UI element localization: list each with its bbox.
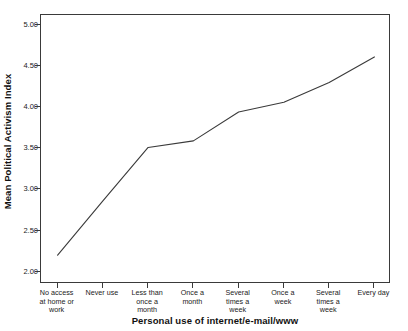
y-axis-tick-mark [35,65,40,66]
y-axis-tick-mark [35,24,40,25]
y-axis-tick-label: 4.50 [8,61,38,70]
x-axis-tick-label-line: week [299,306,357,315]
x-axis-tick-label-line: week [209,306,267,315]
y-axis-tick-label: 5.00 [8,19,38,28]
x-axis-tick-label-line: Every day [344,289,402,298]
y-axis-tick-mark [35,271,40,272]
x-axis-tick-label-line: month [118,306,176,315]
x-axis-title: Personal use of internet/e-mail/www [40,315,390,326]
y-axis-tick-label: 3.00 [8,184,38,193]
y-axis-tick-mark [35,230,40,231]
x-axis-tick-label: Every day [344,289,402,298]
y-axis-tick-mark [35,188,40,189]
x-axis-tick-label-line: work [28,306,86,315]
series-line [58,57,375,255]
data-line-svg [41,15,391,284]
y-axis-tick-label: 2.50 [8,225,38,234]
y-axis-tick-labels: 2.002.503.003.504.004.505.00 [8,0,38,331]
y-axis-tick-mark [35,147,40,148]
y-axis-tick-label: 3.50 [8,143,38,152]
plot-area [40,14,390,283]
line-chart: Mean Political Activism Index 2.002.503.… [0,0,408,331]
y-axis-tick-label: 2.00 [8,266,38,275]
y-axis-tick-mark [35,106,40,107]
y-axis-tick-label: 4.00 [8,102,38,111]
